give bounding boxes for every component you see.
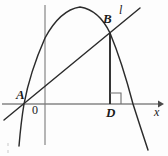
point-a-label: A xyxy=(16,88,25,101)
line-l-label: l xyxy=(119,4,122,16)
line-l xyxy=(4,8,140,120)
point-b-label: B xyxy=(103,12,112,25)
right-angle-mark-icon xyxy=(110,93,121,104)
geometry-figure: A B 0 D x l xyxy=(0,0,168,156)
origin-label: 0 xyxy=(32,104,38,116)
figure-canvas xyxy=(0,0,168,156)
parabola-curve xyxy=(19,7,148,150)
point-d-label: D xyxy=(106,106,115,119)
x-axis-label: x xyxy=(154,106,159,118)
scan-artifact xyxy=(7,150,9,153)
scan-artifact xyxy=(7,143,9,146)
